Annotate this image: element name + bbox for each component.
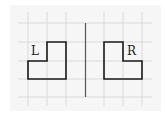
mirror-diagram: L R <box>0 0 165 115</box>
left-label: L <box>31 44 39 58</box>
right-label: R <box>127 44 137 58</box>
